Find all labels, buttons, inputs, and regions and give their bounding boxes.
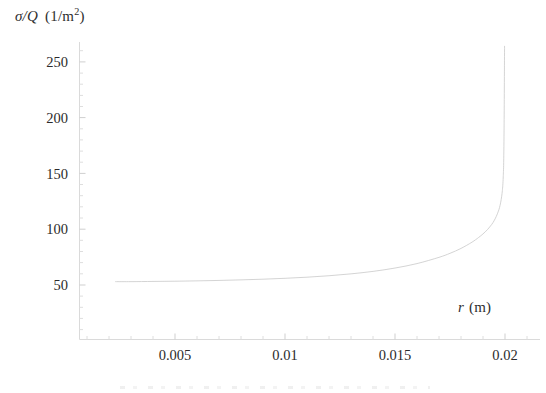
- y-tick-label-200: 200: [22, 110, 68, 127]
- y-tick-label-100: 100: [22, 221, 68, 238]
- x-tick-label-0-02: 0.02: [470, 347, 540, 364]
- y-axis-title-unit-close: ): [79, 8, 84, 24]
- figure-plot-sigma-over-q-vs-r: σ/Q(1/m2) r(m) 250 200 150 100 50 0.005 …: [0, 0, 546, 393]
- x-tick-label-0-015: 0.015: [360, 347, 430, 364]
- x-tick-label-0-01: 0.01: [250, 347, 320, 364]
- x-axis-minor-ticks: [87, 336, 527, 340]
- scan-artifact-strip: [120, 386, 430, 389]
- y-axis-title: σ/Q(1/m2): [15, 8, 85, 25]
- x-tick-label-0-005: 0.005: [140, 347, 210, 364]
- y-tick-label-50: 50: [22, 277, 68, 294]
- data-curve-sigma-over-q: [116, 46, 505, 281]
- x-axis-title-variable: r: [458, 299, 464, 315]
- y-tick-label-150: 150: [22, 166, 68, 183]
- y-axis-title-unit-open: (1/m: [45, 8, 74, 24]
- x-axis-major-ticks: [175, 334, 505, 340]
- y-axis-title-variable: σ/Q: [15, 8, 38, 24]
- y-axis-minor-ticks: [80, 51, 84, 330]
- plot-canvas: [0, 0, 546, 393]
- x-axis-title: r(m): [458, 299, 491, 316]
- x-axis-title-unit: (m): [469, 299, 491, 315]
- y-tick-label-250: 250: [22, 54, 68, 71]
